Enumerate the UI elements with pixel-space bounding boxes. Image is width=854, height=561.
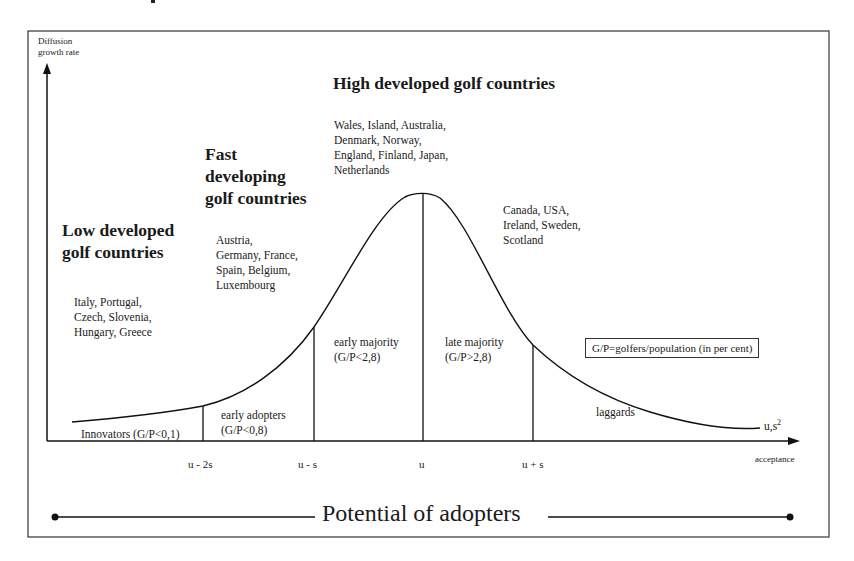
countries-fast-developing: Austria, Germany, France, Spain, Belgium… — [216, 233, 298, 293]
segment-laggards: laggards — [596, 405, 635, 420]
heading-low-developed: Low developed golf countries — [62, 219, 174, 263]
countries-high-developed: Wales, Island, Australia, Denmark, Norwa… — [334, 118, 448, 178]
tick-u: u — [419, 458, 425, 470]
curve-label: u,s2 — [764, 415, 781, 434]
footer-dot-left-icon — [52, 514, 59, 521]
y-axis-label: Diffusion growth rate — [38, 36, 79, 58]
countries-late-majority: Canada, USA, Ireland, Sweden, Scotland — [503, 203, 581, 248]
cropped-text-fragment — [151, 0, 155, 3]
footer-potential-of-adopters: Potential of adopters — [316, 500, 527, 527]
heading-fast-developing: Fast developing golf countries — [205, 143, 307, 209]
segment-late-majority: late majority (G/P>2,8) — [445, 335, 503, 365]
segment-early-adopters: early adopters (G/P<0,8) — [221, 408, 286, 438]
heading-high-developed: High developed golf countries — [333, 72, 555, 94]
tick-u-s: u - s — [298, 458, 317, 470]
curve-label-sup: 2 — [777, 418, 781, 427]
footer-dot-right-icon — [787, 514, 794, 521]
outer-frame — [28, 31, 829, 537]
tick-u-2s: u - 2s — [188, 458, 212, 470]
x-axis-arrow-icon — [788, 437, 800, 445]
legend-box: G/P=golfers/population (in per cent) — [585, 338, 759, 358]
tick-u+s: u + s — [522, 458, 543, 470]
bell-curve — [72, 193, 760, 428]
curve-label-base: u,s — [764, 420, 777, 432]
y-axis-arrow-icon — [43, 63, 51, 74]
x-axis-label: acceptance — [755, 454, 794, 465]
countries-low-developed: Italy, Portugal, Czech, Slovenia, Hungar… — [74, 295, 152, 340]
segment-early-majority: early majority (G/P<2,8) — [334, 335, 399, 365]
segment-innovators: Innovators (G/P<0,1) — [81, 427, 179, 442]
